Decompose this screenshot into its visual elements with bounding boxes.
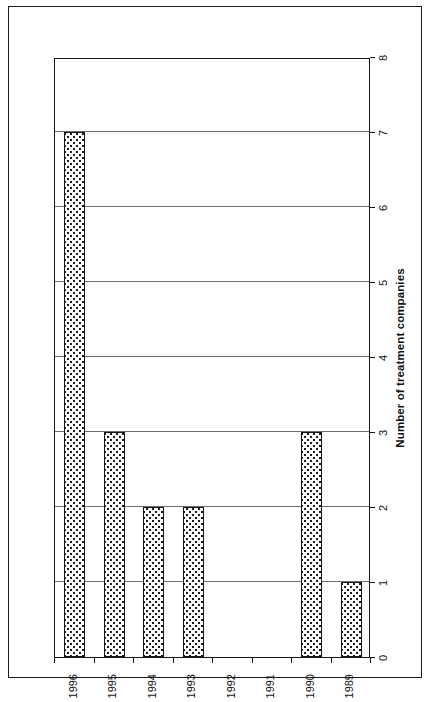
value-label-7: 7 [377,121,389,145]
value-axis: 012345678 [370,58,396,658]
category-label-1990: 1990 [304,674,316,702]
gridline [55,281,369,282]
value-label-4: 4 [377,346,389,370]
category-tick [252,658,253,663]
rotated-chart-wrapper: 012345678 Number of treatment companies … [16,14,414,672]
category-axis: 19891990199119921993199419951996 [54,658,370,672]
category-tick [331,658,332,663]
bar-1996 [64,132,85,657]
bar-1993 [183,507,204,657]
value-tick [370,582,375,583]
gridline [55,206,369,207]
bar-1989 [341,582,362,657]
category-label-1994: 1994 [146,674,158,702]
value-tick [370,282,375,283]
category-tick [133,658,134,663]
bar-1995 [104,432,125,657]
category-label-1995: 1995 [106,674,118,702]
category-tick [212,658,213,663]
value-label-2: 2 [377,496,389,520]
category-label-1991: 1991 [264,674,276,702]
category-label-1996: 1996 [67,674,79,702]
category-tick [370,658,371,663]
plot-area [54,58,370,658]
category-label-1993: 1993 [185,674,197,702]
category-tick [94,658,95,663]
value-label-3: 3 [377,421,389,445]
value-label-5: 5 [377,271,389,295]
bar-1990 [301,432,322,657]
value-tick [370,432,375,433]
gridline [55,131,369,132]
value-label-0: 0 [377,646,389,670]
value-tick [370,357,375,358]
value-label-1: 1 [377,571,389,595]
value-label-8: 8 [377,46,389,70]
value-tick [370,57,375,58]
value-axis-title: Number of treatment companies [394,58,406,658]
value-tick [370,207,375,208]
value-tick [370,507,375,508]
gridline [55,356,369,357]
category-label-1992: 1992 [225,674,237,702]
category-tick [54,658,55,663]
category-label-1989: 1989 [343,674,355,702]
value-label-6: 6 [377,196,389,220]
bar-1994 [143,507,164,657]
category-tick [173,658,174,663]
category-tick [291,658,292,663]
value-tick [370,132,375,133]
bar-chart: 012345678 Number of treatment companies … [16,14,414,672]
